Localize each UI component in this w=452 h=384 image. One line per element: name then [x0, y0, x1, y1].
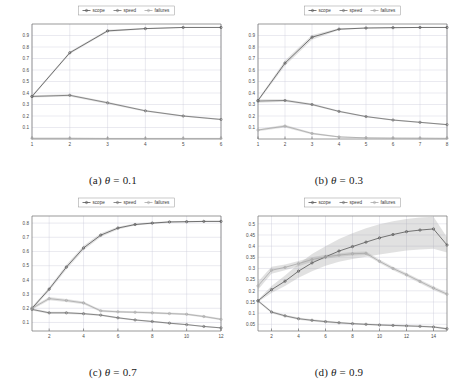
y-tick-label: 0.4: [249, 244, 256, 249]
x-tick-label: 2: [69, 142, 72, 147]
y-tick-label: 0.45: [246, 233, 255, 238]
x-tick-label: 2: [270, 334, 273, 339]
y-tick-label: 0.5: [249, 222, 256, 227]
legend-label-failures: failures: [381, 200, 397, 205]
y-tick-label: 0.1: [23, 320, 30, 325]
subplot-b: 0.10.20.30.40.50.60.70.80.912345678scope…: [226, 0, 452, 192]
legend: scopespeedfailures: [79, 198, 175, 207]
y-tick-label: 0.2: [23, 114, 30, 119]
confidence-band-scope: [258, 27, 447, 102]
legend-label-speed: speed: [350, 200, 363, 205]
caption-b-symbol: θ: [331, 174, 337, 186]
caption-d-value: = 0.9: [340, 366, 364, 378]
confidence-band-scope: [32, 27, 221, 98]
x-tick-label: 5: [365, 142, 368, 147]
y-tick-label: 0.25: [246, 277, 255, 282]
legend-label-scope: scope: [93, 8, 106, 13]
legend-label-failures: failures: [381, 8, 397, 13]
x-tick-label: 4: [338, 142, 341, 147]
x-tick-label: 3: [311, 142, 314, 147]
figure-grid: 0.10.20.30.40.50.60.70.80.9123456scopesp…: [0, 0, 452, 384]
caption-c-prefix: (c): [89, 366, 102, 378]
y-tick-label: 0.05: [246, 322, 255, 327]
caption-d-symbol: θ: [331, 366, 337, 378]
subplot-a: 0.10.20.30.40.50.60.70.80.9123456scopesp…: [0, 0, 226, 192]
series-line-speed: [258, 100, 447, 124]
legend-label-failures: failures: [155, 200, 171, 205]
x-tick-label: 7: [419, 142, 422, 147]
x-tick-label: 2: [284, 142, 287, 147]
y-tick-label: 0.4: [23, 278, 30, 283]
y-tick-label: 0.2: [249, 289, 256, 294]
y-tick-label: 0.3: [23, 292, 30, 297]
legend-label-scope: scope: [319, 8, 332, 13]
y-tick-label: 0.5: [249, 79, 256, 84]
caption-d: (d) θ = 0.9: [226, 366, 452, 378]
x-tick-label: 14: [431, 334, 437, 339]
y-tick-label: 0.8: [23, 221, 30, 226]
y-tick-label: 0.6: [23, 68, 30, 73]
y-tick-label: 0.1: [249, 311, 256, 316]
x-tick-label: 5: [182, 142, 185, 147]
legend-label-speed: speed: [124, 200, 137, 205]
legend: scopespeedfailures: [305, 6, 401, 15]
caption-a-symbol: θ: [105, 174, 111, 186]
caption-a-value: = 0.1: [113, 174, 137, 186]
y-tick-label: 0.3: [23, 102, 30, 107]
series-line-failures: [32, 299, 221, 320]
y-tick-label: 0.15: [246, 300, 255, 305]
legend: scopespeedfailures: [79, 6, 175, 15]
legend-label-scope: scope: [319, 200, 332, 205]
x-tick-label: 12: [404, 334, 410, 339]
caption-a-prefix: (a): [89, 174, 102, 186]
caption-b-prefix: (b): [315, 174, 328, 186]
legend: scopespeedfailures: [305, 198, 401, 207]
legend-label-speed: speed: [124, 8, 137, 13]
y-tick-label: 0.35: [246, 255, 255, 260]
caption-b: (b) θ = 0.3: [226, 174, 452, 186]
caption-d-prefix: (d): [315, 366, 328, 378]
x-tick-label: 1: [31, 142, 34, 147]
y-tick-label: 0.7: [249, 56, 256, 61]
series-line-failures: [258, 126, 447, 138]
subplot-d: 0.050.10.150.20.250.30.350.40.450.524681…: [226, 192, 452, 384]
caption-c: (c) θ = 0.7: [0, 366, 226, 378]
x-tick-label: 6: [392, 142, 395, 147]
series-line-scope: [32, 221, 221, 308]
x-tick-label: 6: [117, 334, 120, 339]
x-tick-label: 2: [48, 334, 51, 339]
y-tick-label: 0.5: [23, 79, 30, 84]
x-tick-label: 3: [106, 142, 109, 147]
y-tick-label: 0.1: [23, 125, 30, 130]
confidence-band-failures: [32, 297, 221, 320]
x-tick-label: 8: [151, 334, 154, 339]
legend-label-speed: speed: [350, 8, 363, 13]
y-tick-label: 0.7: [23, 56, 30, 61]
y-tick-label: 0.3: [249, 102, 256, 107]
x-tick-label: 4: [297, 334, 300, 339]
plot-area-a: 0.10.20.30.40.50.60.70.80.9123456scopesp…: [0, 0, 226, 160]
x-tick-label: 10: [377, 334, 383, 339]
y-tick-label: 0.9: [249, 33, 256, 38]
y-tick-label: 0.6: [249, 68, 256, 73]
x-tick-label: 1: [257, 142, 260, 147]
series-line-scope: [32, 27, 221, 96]
x-tick-label: 8: [351, 334, 354, 339]
caption-c-symbol: θ: [105, 366, 111, 378]
legend-label-failures: failures: [155, 8, 171, 13]
confidence-band-scope: [32, 221, 221, 310]
caption-a: (a) θ = 0.1: [0, 174, 226, 186]
legend-label-scope: scope: [93, 200, 106, 205]
y-tick-label: 0.8: [23, 45, 30, 50]
confidence-band-speed: [258, 99, 447, 125]
x-tick-label: 6: [324, 334, 327, 339]
plot-area-d: 0.050.10.150.20.250.30.350.40.450.524681…: [226, 192, 452, 352]
y-tick-label: 0.2: [249, 114, 256, 119]
x-tick-label: 4: [144, 142, 147, 147]
y-tick-label: 0.6: [23, 249, 30, 254]
x-tick-label: 4: [82, 334, 85, 339]
subplot-c: 0.10.20.30.40.50.60.70.824681012scopespe…: [0, 192, 226, 384]
y-tick-label: 0.8: [249, 45, 256, 50]
x-tick-label: 8: [446, 142, 449, 147]
y-tick-label: 0.7: [23, 235, 30, 240]
